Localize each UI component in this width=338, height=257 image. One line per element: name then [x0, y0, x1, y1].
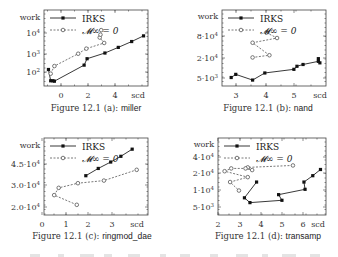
legend-irks-label: IRKS — [256, 142, 279, 152]
series-irks-line — [48, 36, 143, 81]
x-tick-label: 5 — [291, 91, 296, 100]
data-point — [251, 41, 255, 45]
x-tick-label: 4 — [263, 91, 268, 100]
x-tick-label: 5 — [279, 220, 284, 229]
data-point — [84, 174, 87, 177]
chart-panel-b: work5·1032·1048·104345scdIRKS𝓜∞ = 0Figur… — [197, 10, 327, 113]
data-point — [318, 61, 321, 64]
legend-irks-label: IRKS — [260, 14, 283, 24]
data-point — [53, 64, 57, 68]
series-minf-line — [225, 165, 293, 190]
figure-canvas: work102103104024scdIRKS𝓜∞ = 0Figure 12.1… — [0, 0, 338, 257]
data-point — [255, 180, 258, 183]
figure-caption: Figure 12.1 (b): nand — [223, 103, 313, 113]
tick-label: 3.0·104 — [11, 180, 40, 190]
tick-label: 103 — [26, 49, 40, 59]
data-point — [301, 63, 304, 66]
data-point — [57, 186, 61, 190]
data-point — [248, 201, 251, 204]
chart-panel-a: work102103104024scdIRKS𝓜∞ = 0Figure 12.1… — [20, 10, 148, 113]
data-point — [250, 168, 254, 172]
data-point — [302, 180, 305, 183]
x-tick-label: 3 — [237, 220, 242, 229]
data-point — [52, 193, 56, 197]
data-point — [102, 41, 106, 45]
chart-panel-d: work5·1031·1042·1044·10423456scdIRKS𝓜∞ =… — [193, 138, 326, 241]
series-irks-line — [244, 170, 320, 203]
data-point — [234, 73, 237, 76]
x-tick-label: 4 — [112, 91, 117, 100]
figure-caption: Figure 12.1 (c): ringmod_dae — [32, 231, 152, 241]
legend-minf-label: 𝓜∞ = 0 — [260, 26, 297, 36]
data-point — [228, 180, 232, 184]
data-point — [135, 168, 139, 172]
data-point — [295, 65, 298, 68]
tick-label: 4·104 — [193, 152, 215, 162]
data-point — [49, 72, 53, 76]
x-tick-label: 0 — [39, 220, 44, 229]
data-point — [223, 169, 227, 173]
data-point — [291, 164, 295, 168]
tick-label: 104 — [26, 28, 40, 38]
data-point — [83, 64, 86, 67]
data-point — [142, 34, 145, 37]
data-point — [76, 52, 80, 56]
tick-label: 8·104 — [197, 31, 219, 41]
series-minf-line — [54, 170, 137, 205]
data-point — [85, 57, 88, 60]
legend-minf-label: 𝓜∞ = 0 — [82, 26, 119, 36]
data-point — [303, 188, 306, 191]
figure-caption: Figure 12.1 (d): transamp — [215, 231, 321, 241]
tick-label: 5·103 — [193, 202, 215, 212]
data-point — [251, 78, 254, 81]
data-point — [280, 199, 283, 202]
y-axis-label: work — [198, 12, 218, 21]
x-tick-label: 2 — [85, 91, 90, 100]
x-tick-label: 3 — [109, 220, 114, 229]
data-point — [103, 51, 106, 54]
data-point — [47, 68, 50, 71]
data-point — [119, 155, 122, 158]
data-point — [268, 53, 272, 57]
tick-label: 102 — [26, 67, 40, 77]
data-point — [85, 47, 89, 51]
data-point — [76, 181, 80, 185]
x-tick-label: 1 — [63, 220, 68, 229]
tick-label: 5·103 — [197, 73, 219, 83]
data-point — [277, 193, 280, 196]
data-point — [319, 168, 322, 171]
figure-caption: Figure 12.1 (a): miller — [51, 103, 142, 113]
legend: IRKS𝓜∞ = 0 — [50, 142, 119, 164]
legend-minf-label: 𝓜∞ = 0 — [256, 154, 293, 164]
y-axis-label: work — [20, 141, 40, 150]
data-point — [244, 167, 248, 171]
chart-panel-c: work2.0·1043.0·1044.5·1040123scdIRKS𝓜∞ =… — [11, 138, 152, 241]
x-axis-label: scd — [131, 91, 145, 100]
data-point — [243, 196, 246, 199]
y-axis-label: work — [20, 13, 40, 22]
tick-label: 2·104 — [197, 53, 219, 63]
x-tick-label: 4 — [258, 220, 263, 229]
data-point — [230, 76, 233, 79]
data-point — [246, 175, 250, 179]
series-irks-line — [231, 59, 320, 80]
data-point — [53, 80, 56, 83]
tick-label: 4.5·104 — [11, 159, 40, 169]
data-point — [251, 56, 255, 60]
x-axis-label: scd — [311, 220, 325, 229]
legend-minf-label: 𝓜∞ = 0 — [82, 154, 119, 164]
data-point — [237, 189, 241, 193]
x-tick-label: 3 — [233, 91, 238, 100]
x-tick-label: 2 — [85, 220, 90, 229]
x-tick-label: 0 — [58, 91, 63, 100]
x-tick-label: 6 — [300, 220, 305, 229]
data-point — [97, 167, 100, 170]
x-tick-label: 2 — [215, 220, 220, 229]
data-point — [75, 203, 79, 207]
tick-label: 1·104 — [193, 185, 215, 195]
legend: IRKS𝓜∞ = 0 — [224, 142, 293, 164]
y-axis-label: work — [194, 140, 214, 149]
x-axis-label: scd — [130, 220, 144, 229]
legend-irks-label: IRKS — [82, 142, 105, 152]
legend: IRKS𝓜∞ = 0 — [50, 14, 119, 36]
